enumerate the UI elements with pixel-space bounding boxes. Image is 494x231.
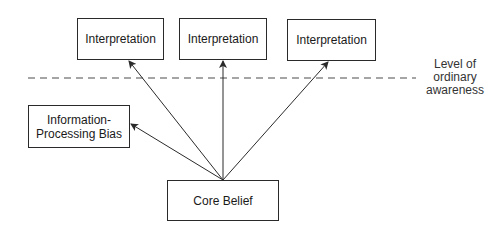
information-processing-bias-box: Information- Processing Bias — [28, 105, 130, 148]
interpretation-label: Interpretation — [85, 32, 156, 46]
core-belief-label: Core Belief — [193, 194, 252, 208]
arrow-core-to-interpretation-1 — [129, 61, 223, 180]
arrow-core-to-interpretation-3 — [223, 62, 328, 180]
interpretation-box-2: Interpretation — [179, 18, 267, 60]
bias-label-line2: Processing Bias — [36, 127, 122, 141]
interpretation-label: Interpretation — [296, 33, 367, 47]
awareness-label-line3: awareness — [415, 84, 494, 97]
awareness-level-label: Level of ordinary awareness — [415, 58, 494, 97]
core-belief-box: Core Belief — [167, 180, 279, 221]
arrow-core-to-bias — [131, 124, 223, 180]
interpretation-label: Interpretation — [188, 32, 259, 46]
interpretation-box-3: Interpretation — [287, 19, 376, 61]
interpretation-box-1: Interpretation — [77, 18, 164, 60]
bias-label-line1: Information- — [47, 113, 111, 127]
